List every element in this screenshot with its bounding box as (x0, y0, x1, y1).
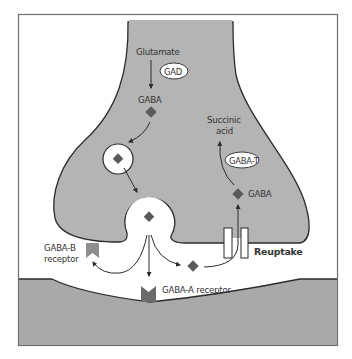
reuptake-transporter-right (241, 228, 248, 258)
succinic-acid-label-line2: acid (216, 126, 233, 136)
gaba-a-receptor-label: GABA-A receptor (162, 285, 232, 295)
gaba-b-receptor-label-line2: receptor (44, 254, 79, 264)
succinic-acid-label-line1: Succinic (207, 115, 241, 125)
gaba-label-top: GABA (138, 95, 162, 105)
gaba-b-receptor-label-line1: GABA-B (44, 243, 76, 253)
glutamate-label: Glutamate (136, 47, 180, 57)
reuptake-transporter-left (224, 228, 232, 258)
gaba-synapse-diagram: Glutamate GAD GABA Reuptake GABA GABA-T … (0, 0, 352, 359)
reuptake-label: Reuptake (254, 246, 303, 257)
gad-label: GAD (164, 67, 182, 77)
gaba-t-label: GABA-T (229, 156, 260, 166)
gaba-label-right: GABA (248, 189, 272, 199)
